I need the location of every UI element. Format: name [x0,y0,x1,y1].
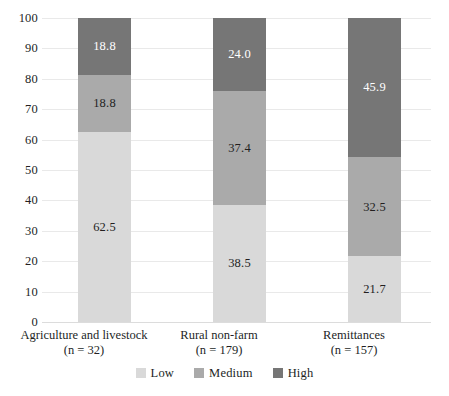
y-tick-50: 50 [2,164,38,177]
bar-segment-label-low: 21.7 [363,283,386,296]
gridline-0 [42,322,431,323]
bar-agriculture-and-livestock: 18.8 18.8 62.5 [78,18,131,322]
bar-segment-low[interactable]: 21.7 [348,256,401,322]
bar-segment-label-medium: 37.4 [228,142,251,155]
bar-segment-label-medium: 32.5 [363,201,386,214]
bar-segment-label-low: 38.5 [228,257,251,270]
legend-label-low: Low [151,367,175,380]
bar-segment-high[interactable]: 45.9 [348,18,401,157]
y-tick-30: 30 [2,225,38,238]
stacked-bar-chart: 100 90 80 70 60 50 40 30 20 10 0 18.8 [0,0,449,396]
bar-segment-label-high: 18.8 [93,40,116,53]
y-tick-0: 0 [2,316,38,329]
legend-label-medium: Medium [209,367,253,380]
bar-segment-high[interactable]: 24.0 [213,18,266,91]
category-name: Agriculture and livestock [20,328,147,342]
legend-swatch-icon-high [273,368,283,378]
bar-segment-low[interactable]: 38.5 [213,205,266,322]
legend-swatch-icon-medium [194,368,204,378]
y-tick-10: 10 [2,285,38,298]
bar-segment-high[interactable]: 18.8 [78,18,131,75]
category-sample-size: (n = 157) [269,343,439,358]
legend-item-high[interactable]: High [273,367,314,380]
y-tick-70: 70 [2,103,38,116]
legend-swatch-icon-low [136,368,146,378]
bar-segment-medium[interactable]: 18.8 [78,75,131,132]
bar-segment-low[interactable]: 62.5 [78,132,131,322]
bar-segment-label-high: 24.0 [228,48,251,61]
plot-area: 18.8 18.8 62.5 24.0 37.4 38.5 [42,18,431,322]
bar-segment-medium[interactable]: 37.4 [213,91,266,205]
bar-segment-label-medium: 18.8 [93,97,116,110]
bar-rural-non-farm: 24.0 37.4 38.5 [213,18,266,322]
y-tick-20: 20 [2,255,38,268]
y-tick-90: 90 [2,42,38,55]
y-tick-40: 40 [2,194,38,207]
bar-group-rural-non-farm[interactable]: 24.0 37.4 38.5 [213,18,266,322]
legend-item-medium[interactable]: Medium [194,367,253,380]
legend-label-high: High [288,367,314,380]
bar-group-agriculture-and-livestock[interactable]: 18.8 18.8 62.5 [78,18,131,322]
y-axis: 100 90 80 70 60 50 40 30 20 10 0 [0,18,38,322]
legend-item-low[interactable]: Low [136,367,175,380]
category-name: Rural non-farm [180,328,257,342]
bar-segment-label-high: 45.9 [363,81,386,94]
y-tick-60: 60 [2,133,38,146]
bar-segment-medium[interactable]: 32.5 [348,157,401,256]
y-tick-80: 80 [2,73,38,86]
bar-group-remittances[interactable]: 45.9 32.5 21.7 [348,18,401,322]
y-tick-100: 100 [2,12,38,25]
bar-segment-label-low: 62.5 [93,221,116,234]
bar-remittances: 45.9 32.5 21.7 [348,18,401,322]
legend: Low Medium High [0,367,449,380]
category-name: Remittances [323,328,385,342]
category-label-remittances: Remittances (n = 157) [269,328,439,358]
